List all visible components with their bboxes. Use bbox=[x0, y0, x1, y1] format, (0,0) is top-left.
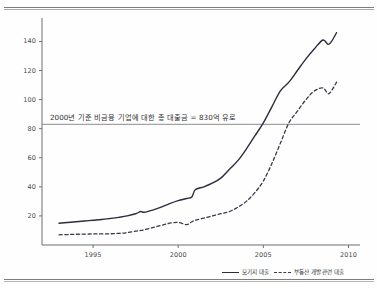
line-chart: 204060801001201401995200020052010 bbox=[0, 10, 377, 268]
x-tick-label: 1995 bbox=[78, 251, 108, 259]
legend-swatch-solid-icon bbox=[222, 272, 239, 273]
legend-entry-development: 부동산 개발 관련 대출 bbox=[274, 268, 344, 276]
chart-canvas bbox=[0, 10, 377, 268]
legend-entry-mortgage: 모기지 대출 bbox=[222, 268, 269, 276]
y-tick-label: 100 bbox=[14, 96, 36, 104]
figure-page: 204060801001201401995200020052010 2000년 … bbox=[0, 0, 377, 288]
legend-label-development: 부동산 개발 관련 대출 bbox=[294, 268, 344, 276]
series-line bbox=[59, 33, 337, 223]
tick-marks bbox=[39, 41, 348, 248]
series-line bbox=[59, 82, 337, 235]
x-tick-label: 2000 bbox=[163, 251, 193, 259]
chart-legend: 모기지 대출 부동산 개발 관련 대출 bbox=[222, 268, 344, 276]
legend-label-mortgage: 모기지 대출 bbox=[242, 268, 269, 276]
y-tick-label: 120 bbox=[14, 67, 36, 75]
page-rule-bottom-secondary bbox=[4, 281, 374, 282]
page-rule-bottom bbox=[4, 279, 374, 280]
y-tick-label: 40 bbox=[14, 183, 36, 191]
page-rule-top bbox=[4, 7, 374, 8]
legend-swatch-dashed-icon bbox=[274, 272, 291, 273]
data-series bbox=[59, 33, 337, 235]
y-tick-label: 80 bbox=[14, 125, 36, 133]
y-tick-label: 20 bbox=[14, 212, 36, 220]
y-tick-label: 140 bbox=[14, 37, 36, 45]
y-tick-label: 60 bbox=[14, 154, 36, 162]
annotation-label: 2000년 기준 비금융 기업에 대한 총 대출금 = 830억 유로 bbox=[50, 112, 236, 122]
x-tick-label: 2005 bbox=[248, 251, 278, 259]
x-tick-label: 2010 bbox=[333, 251, 363, 259]
